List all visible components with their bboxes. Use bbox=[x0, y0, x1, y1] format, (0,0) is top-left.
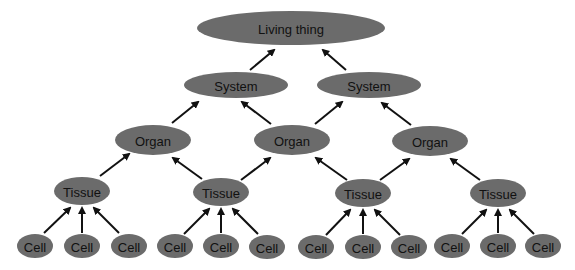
node-c7: Cell bbox=[298, 235, 334, 259]
node-c9: Cell bbox=[391, 235, 427, 259]
node-c4: Cell bbox=[157, 234, 193, 258]
nodes-layer: Living thingSystemSystemOrganOrganOrganT… bbox=[17, 11, 561, 259]
node-sys1: System bbox=[184, 72, 288, 98]
node-label: Cell bbox=[210, 240, 233, 255]
node-label: Cell bbox=[487, 240, 510, 255]
node-c8: Cell bbox=[345, 235, 381, 259]
arrow-c3-to-tis1 bbox=[94, 208, 119, 233]
arrow-org3-to-sys2 bbox=[382, 103, 411, 125]
node-c10: Cell bbox=[434, 234, 470, 258]
node-label: Cell bbox=[305, 241, 328, 256]
node-sys2: System bbox=[317, 72, 421, 98]
arrow-tis2-to-org2 bbox=[241, 158, 270, 180]
node-tis1: Tissue bbox=[54, 177, 110, 205]
node-label: Cell bbox=[256, 241, 279, 256]
node-label: Cell bbox=[24, 240, 47, 255]
node-label: Organ bbox=[412, 135, 448, 150]
arrow-c10-to-tis4 bbox=[462, 210, 486, 234]
node-tis3: Tissue bbox=[335, 179, 391, 207]
node-c1: Cell bbox=[17, 234, 53, 258]
arrow-c1-to-tis1 bbox=[44, 208, 70, 233]
node-org1: Organ bbox=[115, 125, 191, 155]
node-org2: Organ bbox=[254, 125, 330, 155]
node-label: Cell bbox=[164, 240, 187, 255]
node-label: Organ bbox=[135, 134, 171, 149]
arrow-c4-to-tis2 bbox=[184, 209, 209, 234]
arrow-c9-to-tis3 bbox=[375, 210, 400, 235]
arrow-tis3-to-org3 bbox=[380, 159, 409, 180]
arrow-c7-to-tis3 bbox=[326, 210, 350, 235]
node-c2: Cell bbox=[64, 234, 100, 258]
node-label: Tissue bbox=[344, 187, 382, 202]
node-label: System bbox=[214, 79, 257, 94]
arrow-tis1-to-org1 bbox=[100, 154, 129, 176]
node-c3: Cell bbox=[111, 234, 147, 258]
node-label: Cell bbox=[398, 241, 421, 256]
node-living: Living thing bbox=[197, 11, 385, 45]
arrow-tis3-to-org2 bbox=[316, 158, 347, 180]
node-label: Tissue bbox=[63, 185, 101, 200]
arrow-tis2-to-org1 bbox=[173, 158, 202, 179]
node-label: Organ bbox=[274, 134, 310, 149]
node-label: Cell bbox=[441, 240, 464, 255]
node-tis2: Tissue bbox=[193, 178, 249, 206]
hierarchy-diagram: Living thingSystemSystemOrganOrganOrganT… bbox=[0, 0, 575, 270]
arrow-sys1-to-living bbox=[250, 50, 274, 70]
arrow-sys2-to-living bbox=[323, 50, 346, 70]
arrow-org2-to-sys1 bbox=[242, 102, 271, 124]
arrow-org2-to-sys2 bbox=[315, 102, 342, 124]
node-label: Tissue bbox=[479, 187, 517, 202]
node-c5: Cell bbox=[203, 234, 239, 258]
arrow-c12-to-tis4 bbox=[510, 210, 534, 234]
node-label: Cell bbox=[532, 240, 555, 255]
node-label: Cell bbox=[352, 241, 375, 256]
arrow-c6-to-tis2 bbox=[233, 209, 258, 234]
arrow-tis4-to-org3 bbox=[451, 159, 480, 180]
node-c11: Cell bbox=[480, 234, 516, 258]
node-label: Tissue bbox=[202, 186, 240, 201]
node-label: System bbox=[347, 79, 390, 94]
node-label: Living thing bbox=[258, 22, 324, 37]
node-c12: Cell bbox=[525, 234, 561, 258]
node-label: Cell bbox=[118, 240, 141, 255]
arrow-org1-to-sys1 bbox=[172, 102, 198, 123]
node-label: Cell bbox=[71, 240, 94, 255]
node-c6: Cell bbox=[249, 235, 285, 259]
node-org3: Organ bbox=[392, 126, 468, 156]
node-tis4: Tissue bbox=[470, 179, 526, 207]
